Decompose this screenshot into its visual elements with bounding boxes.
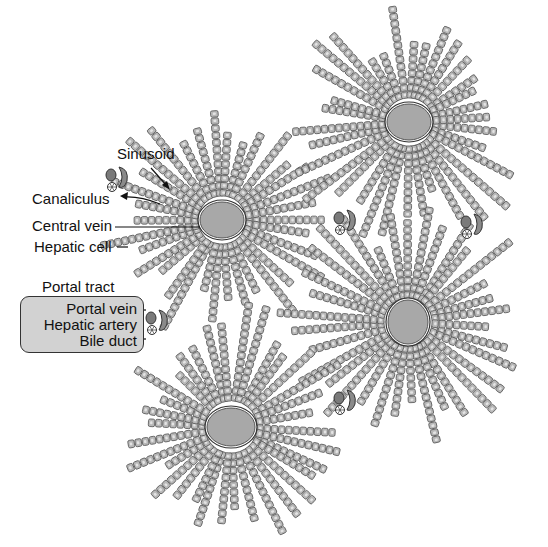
hepatic-artery-shape — [461, 216, 471, 228]
hepatic-artery-label: Hepatic artery — [44, 317, 137, 333]
sinusoid-label: Sinusoid — [117, 146, 175, 162]
bile-duct-shape — [336, 406, 345, 415]
hepatic-cord — [404, 146, 413, 217]
central-vein-label: Central vein — [32, 218, 112, 234]
hepatic-artery-shape — [334, 212, 344, 224]
hepatic-artery-shape — [106, 169, 116, 181]
hepatic-cell-cords — [100, 6, 517, 535]
central-vein — [207, 408, 255, 446]
hepatic-artery-shape — [334, 392, 344, 404]
portal-tract-legend: Portal vein Hepatic artery Bile duct — [20, 296, 144, 353]
portal-tract-label: Portal tract — [42, 279, 115, 295]
central-vein — [388, 300, 428, 344]
liver-lobule-diagram — [0, 0, 548, 547]
portal-tract — [146, 310, 167, 335]
portal-vein-label: Portal vein — [66, 301, 137, 317]
bile-duct-shape — [148, 326, 157, 335]
bile-duct-shape — [463, 230, 472, 239]
hepatic-artery-shape — [146, 312, 156, 324]
bile-duct-label: Bile duct — [79, 333, 137, 349]
hepatic-cell-label: Hepatic cell — [34, 239, 112, 255]
portal-vein-shape — [347, 390, 355, 410]
canaliculus-label: Canaliculus — [32, 191, 110, 207]
bile-duct-shape — [336, 226, 345, 235]
central-vein — [200, 202, 244, 238]
hepatic-cord — [404, 220, 412, 298]
central-vein — [387, 104, 431, 140]
